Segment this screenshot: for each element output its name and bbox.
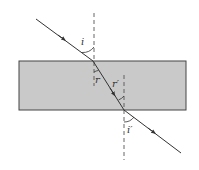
diagram-canvas: i r r′ i′: [0, 0, 199, 170]
angle-arc-i: [82, 47, 94, 53]
label-i-prime: i′: [127, 124, 133, 135]
angle-arc-i-prime: [124, 117, 134, 122]
label-r-prime: r′: [112, 78, 120, 89]
arrow-icon: [58, 35, 64, 39]
arrow-icon: [148, 128, 154, 133]
glass-slab: [19, 61, 186, 110]
refraction-diagram: i r r′ i′: [0, 0, 199, 170]
incident-ray: [36, 19, 93, 61]
label-i: i: [81, 36, 84, 47]
